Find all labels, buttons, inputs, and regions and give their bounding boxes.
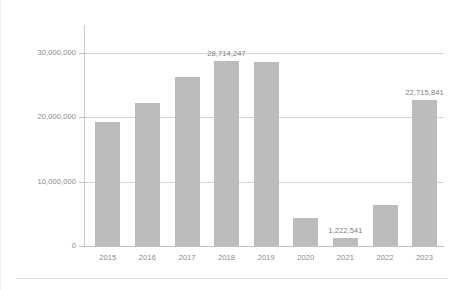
y-axis-label-20000000: 20,000,000 — [8, 112, 76, 121]
bar-2017[interactable] — [175, 77, 200, 246]
y-axis-label-0: 0 — [8, 241, 76, 250]
bar-2016[interactable] — [135, 103, 160, 246]
data-label-2018: 28,714,247 — [187, 49, 267, 58]
bar-2023[interactable] — [412, 100, 437, 246]
y-tick-mark-0 — [79, 246, 84, 247]
y-axis-label-10000000: 10,000,000 — [8, 177, 76, 186]
bar-2015[interactable] — [95, 122, 120, 246]
y-axis-line — [84, 25, 85, 247]
x-axis-label-2022: 2022 — [365, 253, 405, 262]
x-axis-label-2020: 2020 — [286, 253, 326, 262]
y-axis-label-30000000: 30,000,000 — [8, 48, 76, 57]
x-axis-label-2016: 2016 — [127, 253, 167, 262]
x-axis-label-2021: 2021 — [325, 253, 365, 262]
x-axis-label-2015: 2015 — [88, 253, 128, 262]
y-tick-mark-20000000 — [79, 117, 84, 118]
x-axis-baseline — [84, 246, 444, 247]
y-tick-mark-10000000 — [79, 182, 84, 183]
chart-container: 30,000,000 20,000,000 10,000,000 0 2015 … — [0, 0, 464, 290]
x-axis-label-2017: 2017 — [167, 253, 207, 262]
bar-2021[interactable] — [333, 238, 358, 246]
data-label-2023: 22,715,841 — [385, 88, 464, 97]
footer-rule — [16, 278, 448, 279]
bar-2019[interactable] — [254, 62, 279, 246]
bar-2018[interactable] — [214, 61, 239, 246]
x-axis-label-2018: 2018 — [207, 253, 247, 262]
data-label-2021: 1,222,541 — [305, 226, 385, 235]
x-axis-label-2019: 2019 — [246, 253, 286, 262]
x-axis-label-2023: 2023 — [405, 253, 445, 262]
y-tick-mark-30000000 — [79, 53, 84, 54]
bar-chart-plot-area: 30,000,000 20,000,000 10,000,000 0 2015 … — [0, 0, 464, 290]
